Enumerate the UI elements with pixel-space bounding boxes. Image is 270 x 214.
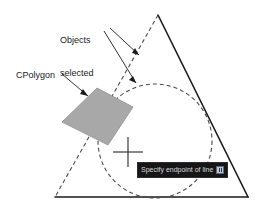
label-objects-selected: Objects selected: [60, 13, 94, 101]
label-cpolygon: CPolygon: [16, 70, 55, 81]
technical-drawing: [0, 0, 270, 214]
command-tooltip-text: Specify endpoint of line or: [141, 166, 214, 174]
label-objects-selected-line2: selected: [60, 68, 94, 79]
leader-objects-to-triangle: [110, 28, 139, 55]
illustration-canvas: Objects selected CPolygon Specify endpoi…: [0, 0, 270, 214]
leader-objects-to-circle: [104, 31, 136, 83]
command-tooltip[interactable]: Specify endpoint of line or: [137, 162, 228, 178]
label-objects-selected-line1: Objects: [60, 35, 94, 46]
dropdown-options-icon[interactable]: [216, 166, 224, 174]
